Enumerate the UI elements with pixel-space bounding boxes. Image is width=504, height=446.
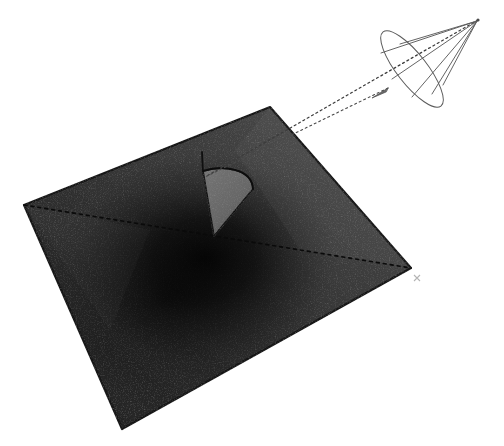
geometry-canvas [0, 0, 504, 446]
cone-base-ellipse [371, 23, 453, 116]
plane-group [18, 107, 420, 429]
cone-apex-point [476, 18, 479, 21]
cone-axis-spike [372, 88, 388, 98]
figure-root: Cone intersecting a plane producing a co… [0, 0, 504, 446]
cone-wireframe-group [371, 18, 479, 115]
corner-tick-icon [414, 275, 420, 281]
